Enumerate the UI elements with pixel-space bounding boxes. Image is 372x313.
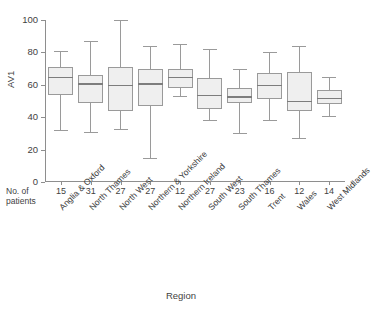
whisker-cap-upper (203, 49, 217, 50)
whisker-upper (269, 52, 270, 73)
y-axis-tick-label: 100 (22, 15, 38, 25)
box-iqr (168, 69, 193, 88)
whisker-lower (209, 109, 210, 120)
x-axis-tick (180, 182, 181, 185)
y-axis-title: AV1 (5, 71, 16, 88)
whisker-upper (180, 44, 181, 68)
whisker-cap-lower (84, 132, 98, 133)
y-axis-tick (41, 182, 45, 183)
x-axis-tick (270, 182, 271, 185)
whisker-cap-upper (54, 51, 68, 52)
whisker-cap-upper (263, 52, 277, 53)
x-axis-tick (210, 182, 211, 185)
whisker-cap-lower (322, 116, 336, 117)
median-line (168, 77, 193, 78)
whisker-lower (180, 88, 181, 96)
whisker-lower (299, 111, 300, 139)
x-axis-tick (91, 182, 92, 185)
boxplot-box (108, 20, 133, 182)
whisker-cap-lower (114, 129, 128, 130)
whisker-lower (60, 95, 61, 131)
whisker-cap-upper (114, 20, 128, 21)
whisker-upper (90, 41, 91, 75)
whisker-cap-lower (203, 120, 217, 121)
box-iqr (138, 69, 163, 106)
x-axis-title: Region (0, 290, 362, 301)
whisker-cap-lower (233, 133, 247, 134)
boxplot-box (227, 20, 252, 182)
median-line (197, 95, 222, 96)
whisker-upper (239, 69, 240, 88)
whisker-cap-lower (143, 158, 157, 159)
x-axis-tick (329, 182, 330, 185)
median-line (48, 77, 73, 78)
whisker-lower (329, 104, 330, 115)
x-axis-tick (240, 182, 241, 185)
whisker-upper (329, 77, 330, 90)
whisker-lower (90, 103, 91, 132)
boxplot-box (287, 20, 312, 182)
boxplot-box (48, 20, 73, 182)
median-line (78, 83, 103, 84)
box-iqr (78, 75, 103, 103)
box-iqr (287, 72, 312, 111)
patient-count-label-line1: No. of (6, 186, 29, 196)
whisker-cap-lower (263, 120, 277, 121)
x-axis-tick (61, 182, 62, 185)
boxplot-box (257, 20, 282, 182)
y-axis-tick-label: 80 (27, 47, 38, 57)
box-iqr (48, 67, 73, 95)
whisker-lower (120, 111, 121, 129)
whisker-upper (60, 51, 61, 67)
whisker-lower (269, 99, 270, 120)
median-line (108, 85, 133, 86)
box-iqr (108, 67, 133, 111)
whisker-cap-upper (292, 46, 306, 47)
whisker-cap-upper (84, 41, 98, 42)
whisker-lower (150, 106, 151, 158)
whisker-cap-upper (233, 69, 247, 70)
x-axis-tick (121, 182, 122, 185)
y-axis-tick-label: 40 (27, 112, 38, 122)
median-line (257, 85, 282, 86)
whisker-cap-upper (322, 77, 336, 78)
boxplot-box (168, 20, 193, 182)
whisker-upper (150, 46, 151, 69)
x-axis-tick (150, 182, 151, 185)
x-axis-tick (299, 182, 300, 185)
boxplot-box (138, 20, 163, 182)
median-line (287, 101, 312, 102)
whisker-cap-lower (54, 130, 68, 131)
median-line (138, 83, 163, 84)
boxplot-box (317, 20, 342, 182)
whisker-cap-lower (173, 96, 187, 97)
whisker-upper (299, 46, 300, 72)
median-line (227, 96, 252, 97)
whisker-upper (120, 20, 121, 67)
x-axis-category-labels: Anglia & OxfordNorth ThamesNorth WestNor… (0, 205, 362, 290)
y-axis-tick-label: 60 (27, 80, 38, 90)
median-line (317, 98, 342, 99)
y-axis-tick-label: 20 (27, 145, 38, 155)
whisker-cap-upper (173, 44, 187, 45)
whisker-cap-lower (292, 138, 306, 139)
whisker-upper (209, 49, 210, 78)
boxplot-box (78, 20, 103, 182)
whisker-cap-upper (143, 46, 157, 47)
box-iqr (257, 73, 282, 99)
whisker-lower (239, 103, 240, 134)
